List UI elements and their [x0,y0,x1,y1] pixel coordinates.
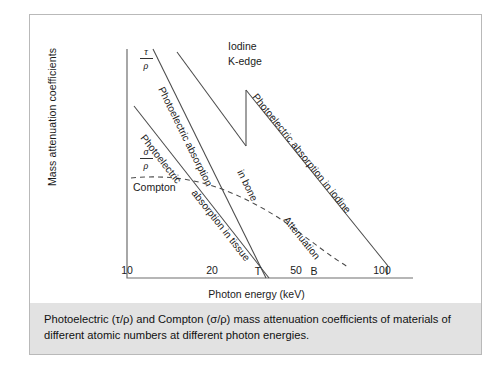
tau-over-rho-label: τ ρ [140,46,153,71]
x-tick-label-50: 50 [290,264,302,276]
y-axis-title: Mass attenuation coefficients [46,32,58,202]
rho-symbol-sigma: ρ [143,160,149,171]
figure-caption-text: Photoelectric (τ/ρ) and Compton (σ/ρ) ma… [44,311,467,343]
x-tick-label-20: 20 [206,264,218,276]
iodine-k-edge-label-line2: K-edge [228,55,262,67]
photoelectric-tissue-label-part2: absorption in tissue [189,187,252,263]
iodine-k-edge-label-line1: Iodine [228,40,257,52]
chart-svg: τ ρ σ ρ Iodine K-edge Compton Photoelect… [30,15,483,302]
figure-frame: τ ρ σ ρ Iodine K-edge Compton Photoelect… [29,14,482,355]
figure-caption-box: Photoelectric (τ/ρ) and Compton (σ/ρ) ma… [30,303,481,354]
attenuation-label: Attenuation [281,214,322,261]
chart-plot-area: τ ρ σ ρ Iodine K-edge Compton Photoelect… [30,15,483,302]
figure-page: τ ρ σ ρ Iodine K-edge Compton Photoelect… [0,0,500,370]
tau-symbol: τ [144,46,148,57]
photoelectric-iodine-label: Photoelectric absorption in iodine [250,91,353,215]
x-tick-label-100: 100 [373,264,391,276]
x-tick-label-10: 10 [121,264,133,276]
marker-label-bone: B [310,265,317,277]
in-bone-label: in bone [235,168,260,203]
compton-label: Compton [133,181,176,193]
x-axis-title: Photon energy (keV) [30,288,483,300]
rho-symbol-tau: ρ [143,60,149,71]
marker-label-tissue: T [255,265,262,277]
